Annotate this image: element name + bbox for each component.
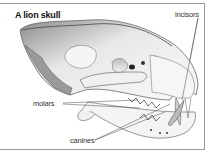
label-incisors: incisors xyxy=(175,10,199,19)
label-molars: molars xyxy=(33,99,54,108)
lion-skull-illustration xyxy=(0,0,215,157)
molars-leader-line xyxy=(63,100,138,103)
label-canines: canines xyxy=(70,136,94,145)
figure-title: A lion skull xyxy=(15,10,60,20)
